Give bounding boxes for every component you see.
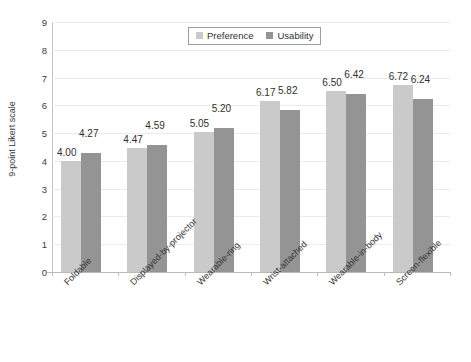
y-axis-tick-label: 5 <box>26 128 47 139</box>
bar-preference[interactable] <box>127 148 147 272</box>
chart-legend: PreferenceUsability <box>188 27 321 45</box>
y-axis-title: 9-point Likert scale <box>0 0 24 278</box>
x-axis-tick-mark <box>450 272 451 276</box>
legend-swatch-icon <box>266 32 273 39</box>
bar-preference[interactable] <box>326 91 346 272</box>
bar-value-label: 6.72 <box>389 71 408 82</box>
y-axis-tick-label: 8 <box>26 44 47 55</box>
y-axis-tick-labels: 0123456789 <box>26 0 47 362</box>
y-axis-tick-label: 6 <box>26 100 47 111</box>
bar-preference[interactable] <box>194 132 214 272</box>
legend-label: Usability <box>277 30 313 41</box>
bar-value-label: 6.42 <box>344 69 363 80</box>
x-axis-tick-mark <box>52 272 53 276</box>
y-axis-tick-label: 0 <box>26 267 47 278</box>
y-axis-tick-label: 7 <box>26 72 47 83</box>
bar-value-label: 6.24 <box>411 74 430 85</box>
bar-value-label: 4.00 <box>57 147 76 158</box>
bar-value-label: 5.82 <box>278 85 297 96</box>
bar-usability[interactable] <box>81 153 101 272</box>
y-axis-title-text: 9-point Likert scale <box>7 101 17 177</box>
x-axis-line <box>47 272 451 273</box>
bar-value-label: 5.05 <box>190 118 209 129</box>
y-axis-tick-label: 3 <box>26 183 47 194</box>
y-axis-tick-label: 9 <box>26 17 47 28</box>
y-axis-tick-label: 2 <box>26 211 47 222</box>
legend-item[interactable]: Preference <box>196 30 253 41</box>
bar-value-label: 6.50 <box>322 77 341 88</box>
bar-preference[interactable] <box>260 101 280 272</box>
y-axis-tick-label: 4 <box>26 155 47 166</box>
bar-value-label: 4.27 <box>79 128 98 139</box>
plot-area <box>52 22 450 272</box>
bar-value-label: 4.47 <box>123 134 142 145</box>
x-axis-tick-mark <box>317 272 318 276</box>
bar-preference[interactable] <box>393 85 413 272</box>
bar-preference[interactable] <box>61 161 81 272</box>
x-axis-tick-mark <box>384 272 385 276</box>
bar-group <box>185 22 251 272</box>
bar-value-label: 6.17 <box>256 87 275 98</box>
y-axis-tick-label: 1 <box>26 239 47 250</box>
legend-label: Preference <box>207 30 253 41</box>
legend-item[interactable]: Usability <box>266 30 313 41</box>
bar-value-label: 5.20 <box>212 103 231 114</box>
bar-group <box>384 22 450 272</box>
legend-swatch-icon <box>196 32 203 39</box>
x-axis-tick-mark <box>185 272 186 276</box>
bar-chart: 9-point Likert scale 0123456789 Preferen… <box>0 0 471 362</box>
x-axis-tick-mark <box>251 272 252 276</box>
x-axis-tick-mark <box>118 272 119 276</box>
bar-group <box>251 22 317 272</box>
bar-value-label: 4.59 <box>145 120 164 131</box>
